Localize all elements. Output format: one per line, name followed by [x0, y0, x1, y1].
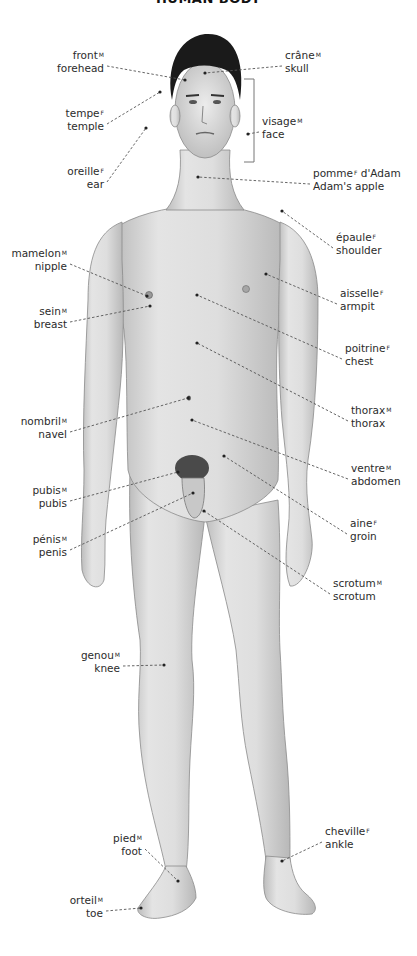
- label-oreille: oreilleFear: [67, 165, 104, 191]
- gender-marker: M: [297, 117, 302, 124]
- right-leg: [205, 500, 290, 862]
- label-french: tempeF: [66, 107, 104, 120]
- leader-dot-scrotum: [202, 509, 205, 512]
- leader-line-oreille: [107, 128, 146, 182]
- leader-dot-cheville: [280, 859, 283, 862]
- label-thorax: thoraxMthorax: [351, 404, 391, 430]
- label-penis: pénisMpenis: [33, 533, 67, 559]
- gender-marker: M: [62, 417, 67, 424]
- gender-marker: F: [373, 519, 376, 526]
- gender-marker: M: [316, 51, 321, 58]
- gender-marker: F: [386, 344, 389, 351]
- label-front: frontMforehead: [57, 49, 104, 75]
- leader-dot-visage: [246, 132, 249, 135]
- label-english: scrotum: [333, 590, 382, 603]
- leader-dot-front: [183, 78, 186, 81]
- label-ventre: ventreMabdomen: [351, 462, 401, 488]
- label-epaule: épauleFshoulder: [336, 231, 382, 257]
- right-foot: [264, 856, 316, 914]
- gender-marker: M: [386, 464, 391, 471]
- leader-dot-pied: [176, 879, 179, 882]
- gender-marker: M: [99, 51, 104, 58]
- gender-marker: M: [386, 406, 391, 413]
- leader-dot-orteil: [139, 906, 142, 909]
- gender-marker: M: [62, 249, 67, 256]
- label-french: aineF: [350, 517, 377, 530]
- label-french: crâneM: [285, 49, 321, 62]
- label-english: face: [262, 128, 302, 141]
- gender-marker: M: [62, 535, 67, 542]
- leader-dot-pomme: [196, 175, 199, 178]
- label-scrotum: scrotumMscrotum: [333, 577, 382, 603]
- label-pied: piedMfoot: [113, 832, 142, 858]
- gender-marker: F: [101, 109, 104, 116]
- face-bracket: [244, 79, 254, 162]
- label-nombril: nombrilMnavel: [21, 415, 67, 441]
- label-poitrine: poitrineFchest: [345, 342, 390, 368]
- leader-line-orteil: [106, 908, 141, 911]
- label-cheville: chevilleFankle: [325, 825, 370, 851]
- label-english: navel: [21, 428, 67, 441]
- leader-dot-crane: [203, 71, 206, 74]
- label-english: nipple: [11, 260, 67, 273]
- label-french: thoraxM: [351, 404, 391, 417]
- leader-dot-epaule: [280, 209, 283, 212]
- leader-dot-aine: [222, 454, 225, 457]
- right-arm: [279, 222, 318, 586]
- leader-dot-genou: [162, 663, 165, 666]
- label-french: épauleF: [336, 231, 382, 244]
- label-english: knee: [81, 662, 120, 675]
- leader-dot-mamelon: [145, 294, 148, 297]
- head: [175, 62, 235, 158]
- leader-dot-tempe: [158, 90, 161, 93]
- leader-dot-thorax: [195, 341, 198, 344]
- neck: [166, 150, 244, 210]
- label-english: shoulder: [336, 244, 382, 257]
- label-english: skull: [285, 62, 321, 75]
- leader-dot-sein: [148, 304, 151, 307]
- label-french: genouM: [81, 649, 120, 662]
- label-french: ventreM: [351, 462, 401, 475]
- leader-dot-nombril: [186, 396, 189, 399]
- label-english: armpit: [340, 300, 384, 313]
- label-aisselle: aisselleFarmpit: [340, 287, 384, 313]
- left-ear: [170, 105, 180, 127]
- label-french: piedM: [113, 832, 142, 845]
- label-french: nombrilM: [21, 415, 67, 428]
- label-french: frontM: [57, 49, 104, 62]
- label-english: thorax: [351, 417, 391, 430]
- label-french: aisselleF: [340, 287, 384, 300]
- label-english: temple: [66, 120, 104, 133]
- gender-marker: M: [377, 579, 382, 586]
- label-french: oreilleF: [67, 165, 104, 178]
- label-english: toe: [70, 907, 103, 920]
- leader-dot-oreille: [144, 126, 147, 129]
- label-sein: seinMbreast: [34, 305, 67, 331]
- leader-dot-pubis: [176, 470, 179, 473]
- label-english: ankle: [325, 838, 370, 851]
- right-nipple: [243, 286, 250, 293]
- label-orteil: orteilMtoe: [70, 894, 103, 920]
- label-tempe: tempeFtemple: [66, 107, 104, 133]
- label-english: pubis: [32, 497, 67, 510]
- label-english: foot: [113, 845, 142, 858]
- leader-line-tempe: [107, 92, 160, 124]
- label-french: pénisM: [33, 533, 67, 546]
- label-english: groin: [350, 530, 377, 543]
- leader-dot-poitrine: [195, 293, 198, 296]
- label-french: chevilleF: [325, 825, 370, 838]
- gender-marker: F: [373, 233, 376, 240]
- gender-marker: M: [62, 307, 67, 314]
- leader-dot-ventre: [190, 418, 193, 421]
- label-mamelon: mamelonMnipple: [11, 247, 67, 273]
- label-french: seinM: [34, 305, 67, 318]
- label-crane: crâneMskull: [285, 49, 321, 75]
- right-ear: [230, 105, 240, 127]
- gender-marker: M: [62, 486, 67, 493]
- label-french: poitrineF: [345, 342, 390, 355]
- label-pomme: pommeF d'AdamAdam's apple: [313, 167, 401, 193]
- leader-dot-aisselle: [264, 272, 267, 275]
- left-leg: [130, 470, 205, 872]
- label-pubis: pubisMpubis: [32, 484, 67, 510]
- label-english: penis: [33, 546, 67, 559]
